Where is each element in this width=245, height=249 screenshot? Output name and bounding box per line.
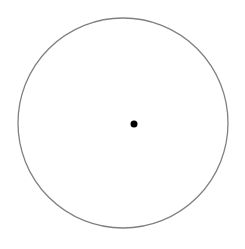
geometry-diagram	[0, 0, 245, 249]
outer-circle	[18, 18, 228, 228]
interior-point	[131, 121, 138, 128]
diagram-canvas	[0, 0, 245, 249]
